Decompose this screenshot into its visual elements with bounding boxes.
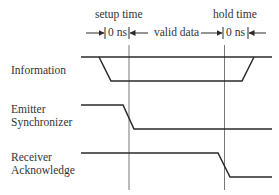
timing-diagram-canvas — [0, 0, 279, 195]
signal-emitter-waveform — [81, 105, 272, 129]
signal-information-waveform — [81, 57, 272, 81]
signal-receiver-waveform — [81, 153, 272, 177]
hold-dimension — [201, 27, 266, 39]
setup-dimension — [86, 27, 148, 39]
